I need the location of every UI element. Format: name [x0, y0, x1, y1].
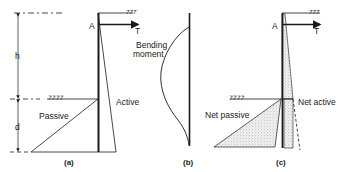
net-passive-label: Net passive	[205, 110, 250, 120]
bending-label-line2: moment	[133, 49, 164, 59]
tie-label-a: T	[135, 26, 140, 36]
tie-label-c: T	[314, 26, 319, 36]
net-active-upper-area	[282, 14, 293, 99]
passive-pressure-triangle	[31, 99, 98, 152]
caption-b: (b)	[183, 158, 194, 167]
d-label: d	[15, 122, 20, 132]
active-label: Active	[116, 97, 139, 107]
caption-c: (c)	[276, 158, 286, 167]
panel-c: 7777 777 A T Net passive Net active (c)	[205, 9, 336, 167]
anchored-sheet-pile-diagram: h d 7777 777 A T Passive Active (a) Bend…	[0, 0, 342, 172]
panel-a: h d 7777 777 A T Passive Active (a)	[10, 9, 140, 167]
anchor-label-c: A	[272, 21, 278, 31]
h-label: h	[15, 51, 20, 61]
tie-anchor-hatch-c: 777	[309, 9, 320, 15]
net-passive-area	[214, 99, 281, 147]
caption-a: (a)	[64, 158, 74, 167]
tie-anchor-hatch: 777	[126, 9, 137, 15]
ground-hatch-front: 7777	[48, 94, 63, 101]
anchor-label-a: A	[89, 21, 95, 31]
panel-b: Bending moment (b)	[133, 13, 194, 167]
net-active-label: Net active	[298, 97, 336, 107]
passive-label: Passive	[39, 111, 69, 121]
active-pressure-triangle	[98, 13, 116, 152]
ground-hatch-c: 7777	[229, 94, 244, 101]
net-active-lower-area	[284, 99, 293, 148]
